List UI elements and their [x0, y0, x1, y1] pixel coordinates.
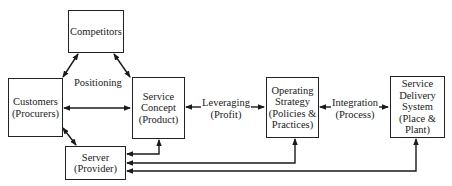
edge-server-service-concept [127, 140, 159, 154]
node-customers: Customers (Procurers) [8, 78, 63, 137]
edge-label-line: (Profit) [201, 109, 251, 121]
node-service-delivery-system: Service Delivery System (Place & Plant) [390, 76, 445, 138]
edge-label-line: (Process) [331, 109, 379, 121]
node-sublabel: (Place & [399, 113, 436, 125]
edge-competitors-customers [63, 54, 78, 77]
edge-customers-server [63, 128, 76, 145]
node-server: Server (Provider) [65, 146, 126, 180]
node-label: Delivery [399, 90, 436, 102]
node-label: Competitors [70, 26, 122, 38]
edge-server-delivery-system [127, 139, 416, 171]
node-label: System [402, 101, 433, 113]
node-label: Concept [141, 102, 176, 114]
node-sublabel: (Product) [139, 114, 179, 126]
node-sublabel: (Policies & [269, 108, 317, 120]
node-label: Service [402, 78, 434, 90]
edge-label-integration: Integration (Process) [331, 97, 379, 120]
node-label: Server [82, 152, 109, 164]
node-label: Service [143, 91, 175, 103]
node-label: Operating [272, 85, 314, 97]
edge-label-positioning: Positioning [74, 77, 120, 89]
node-sublabel: Practices) [272, 119, 313, 131]
edge-server-operating-strategy [127, 139, 295, 163]
edge-label-line: Integration [331, 97, 379, 109]
edge-label-leveraging: Leveraging (Profit) [201, 97, 251, 120]
node-service-concept: Service Concept (Product) [132, 77, 185, 139]
node-operating-strategy: Operating Strategy (Policies & Practices… [266, 77, 319, 138]
node-sublabel: Plant) [405, 124, 430, 136]
node-label: Customers [13, 96, 58, 108]
edge-label-line: Leveraging [201, 97, 251, 109]
node-sublabel: (Procurers) [12, 108, 59, 120]
node-competitors: Competitors [68, 10, 124, 53]
edge-competitors-service-concept [114, 54, 130, 77]
node-label: Strategy [275, 96, 310, 108]
node-sublabel: (Provider) [74, 163, 117, 175]
